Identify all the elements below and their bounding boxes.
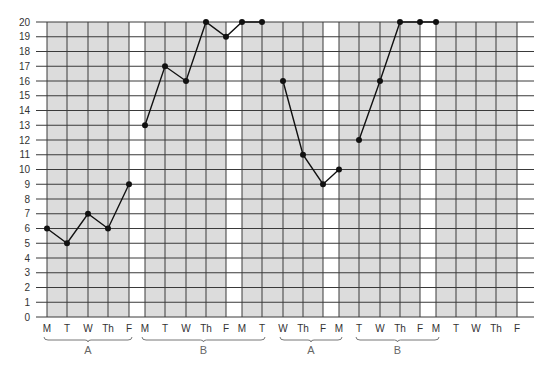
y-tick-label: 7 xyxy=(24,208,30,219)
y-tick-label: 14 xyxy=(19,105,31,116)
y-axis-ticks: 01234567891011121314151617181920 xyxy=(19,17,31,323)
y-tick-label: 10 xyxy=(19,164,31,175)
phase-bracket xyxy=(142,337,265,342)
data-point xyxy=(203,19,209,25)
x-tick-label: T xyxy=(453,323,459,334)
data-point xyxy=(183,78,189,84)
data-point xyxy=(223,34,229,40)
x-tick-label: F xyxy=(223,323,229,334)
data-point xyxy=(105,226,111,232)
y-tick-label: 17 xyxy=(19,61,31,72)
x-tick-label: W xyxy=(278,323,288,334)
data-point xyxy=(239,19,245,25)
data-point xyxy=(85,211,91,217)
data-point xyxy=(336,167,342,173)
x-tick-label: T xyxy=(162,323,168,334)
data-point xyxy=(44,226,50,232)
phase-bracket xyxy=(280,337,342,342)
data-point xyxy=(397,19,403,25)
x-tick-label: M xyxy=(238,323,246,334)
data-point xyxy=(142,122,148,128)
x-tick-label: T xyxy=(259,323,265,334)
y-tick-label: 13 xyxy=(19,120,31,131)
ab-design-line-chart: 01234567891011121314151617181920 MTWThFM… xyxy=(0,0,550,371)
data-point xyxy=(259,19,265,25)
x-tick-label: F xyxy=(514,323,520,334)
x-tick-label: M xyxy=(335,323,343,334)
y-tick-label: 19 xyxy=(19,31,31,42)
x-tick-label: W xyxy=(181,323,191,334)
x-tick-label: F xyxy=(320,323,326,334)
data-point xyxy=(126,181,132,187)
horizontal-gridlines xyxy=(36,22,534,317)
phase-bracket xyxy=(44,337,132,342)
y-tick-label: 12 xyxy=(19,135,31,146)
y-tick-label: 9 xyxy=(24,179,30,190)
y-tick-label: 18 xyxy=(19,46,31,57)
x-tick-label: F xyxy=(126,323,132,334)
y-tick-label: 5 xyxy=(24,238,30,249)
data-point xyxy=(377,78,383,84)
x-tick-label: Th xyxy=(490,323,502,334)
phase-label: B xyxy=(394,344,401,356)
data-point xyxy=(300,152,306,158)
x-axis-day-labels: MTWThFMTWThFMTWThFMTWThFMTWThF xyxy=(43,323,520,334)
data-point xyxy=(320,181,326,187)
data-point xyxy=(356,137,362,143)
y-tick-label: 11 xyxy=(20,149,31,160)
x-tick-label: Th xyxy=(200,323,212,334)
y-tick-label: 6 xyxy=(24,223,30,234)
x-tick-label: W xyxy=(471,323,481,334)
data-point xyxy=(64,240,70,246)
phase-label: A xyxy=(84,344,92,356)
x-tick-label: W xyxy=(375,323,385,334)
phase-bracket xyxy=(356,337,439,342)
phase-label: B xyxy=(200,344,207,356)
x-tick-label: F xyxy=(417,323,423,334)
x-tick-label: Th xyxy=(102,323,114,334)
y-tick-label: 3 xyxy=(24,267,30,278)
y-tick-label: 20 xyxy=(19,17,31,28)
y-tick-label: 8 xyxy=(24,194,30,205)
x-tick-label: T xyxy=(64,323,70,334)
data-point xyxy=(433,19,439,25)
phase-brackets: ABAB xyxy=(44,337,439,356)
y-tick-label: 2 xyxy=(24,282,30,293)
x-tick-label: T xyxy=(356,323,362,334)
y-tick-label: 1 xyxy=(24,297,30,308)
x-tick-label: Th xyxy=(394,323,406,334)
y-tick-label: 15 xyxy=(19,90,31,101)
y-tick-label: 16 xyxy=(19,76,31,87)
y-tick-label: 0 xyxy=(24,312,30,323)
x-tick-label: M xyxy=(432,323,440,334)
data-point xyxy=(162,63,168,69)
data-point xyxy=(280,78,286,84)
x-tick-label: Th xyxy=(297,323,309,334)
x-tick-label: M xyxy=(43,323,51,334)
phase-label: A xyxy=(307,344,315,356)
data-point xyxy=(417,19,423,25)
x-tick-label: M xyxy=(141,323,149,334)
x-tick-label: W xyxy=(83,323,93,334)
y-tick-label: 4 xyxy=(24,253,30,264)
